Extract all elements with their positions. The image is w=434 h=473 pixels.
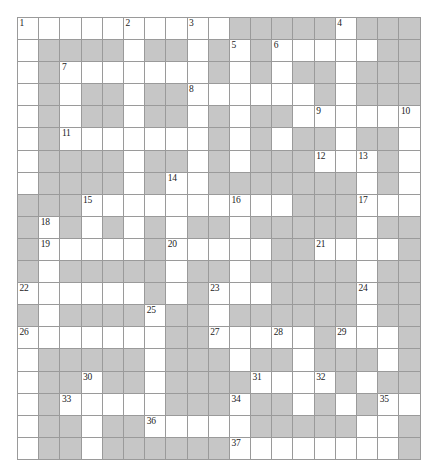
crossword-cell-open[interactable] xyxy=(60,84,81,106)
crossword-cell-open[interactable] xyxy=(335,393,356,415)
crossword-cell-open[interactable] xyxy=(39,305,60,327)
crossword-cell-open[interactable] xyxy=(229,283,250,305)
crossword-cell-open[interactable] xyxy=(272,437,293,459)
crossword-cell-open[interactable] xyxy=(123,216,144,238)
crossword-cell-open[interactable] xyxy=(187,62,208,84)
crossword-cell-open[interactable] xyxy=(399,194,420,216)
crossword-cell-open[interactable] xyxy=(166,62,187,84)
crossword-cell-open[interactable] xyxy=(123,194,144,216)
crossword-cell-open[interactable]: 17 xyxy=(357,194,378,216)
crossword-cell-open[interactable] xyxy=(18,371,39,393)
crossword-cell-open[interactable]: 37 xyxy=(229,437,250,459)
crossword-cell-open[interactable]: 25 xyxy=(145,305,166,327)
crossword-cell-open[interactable] xyxy=(229,62,250,84)
crossword-cell-open[interactable] xyxy=(102,62,123,84)
crossword-cell-open[interactable] xyxy=(39,327,60,349)
crossword-cell-open[interactable]: 4 xyxy=(335,18,356,40)
crossword-cell-open[interactable] xyxy=(208,238,229,260)
crossword-cell-open[interactable] xyxy=(208,84,229,106)
crossword-cell-open[interactable]: 27 xyxy=(208,327,229,349)
crossword-cell-open[interactable] xyxy=(229,349,250,371)
crossword-cell-open[interactable]: 34 xyxy=(229,393,250,415)
crossword-cell-open[interactable] xyxy=(18,172,39,194)
crossword-cell-open[interactable] xyxy=(81,238,102,260)
crossword-cell-open[interactable] xyxy=(229,261,250,283)
crossword-cell-open[interactable] xyxy=(60,283,81,305)
crossword-cell-open[interactable] xyxy=(378,194,399,216)
crossword-cell-open[interactable] xyxy=(335,238,356,260)
crossword-cell-open[interactable] xyxy=(251,437,272,459)
crossword-cell-open[interactable] xyxy=(293,371,314,393)
crossword-cell-open[interactable]: 7 xyxy=(60,62,81,84)
crossword-cell-open[interactable] xyxy=(335,106,356,128)
crossword-cell-open[interactable] xyxy=(102,393,123,415)
crossword-cell-open[interactable] xyxy=(187,150,208,172)
crossword-cell-open[interactable] xyxy=(187,40,208,62)
crossword-cell-open[interactable] xyxy=(293,349,314,371)
crossword-cell-open[interactable] xyxy=(229,150,250,172)
crossword-cell-open[interactable] xyxy=(39,261,60,283)
crossword-cell-open[interactable] xyxy=(208,305,229,327)
crossword-cell-open[interactable] xyxy=(187,106,208,128)
crossword-cell-open[interactable] xyxy=(357,238,378,260)
crossword-cell-open[interactable] xyxy=(81,415,102,437)
crossword-cell-open[interactable] xyxy=(81,327,102,349)
crossword-cell-open[interactable]: 29 xyxy=(335,327,356,349)
crossword-cell-open[interactable]: 20 xyxy=(166,238,187,260)
crossword-cell-open[interactable] xyxy=(272,84,293,106)
crossword-cell-open[interactable] xyxy=(335,84,356,106)
crossword-cell-open[interactable] xyxy=(187,238,208,260)
crossword-cell-open[interactable] xyxy=(145,62,166,84)
crossword-cell-open[interactable] xyxy=(378,437,399,459)
crossword-cell-open[interactable] xyxy=(229,84,250,106)
crossword-cell-open[interactable] xyxy=(208,18,229,40)
crossword-cell-open[interactable] xyxy=(145,194,166,216)
crossword-cell-open[interactable] xyxy=(166,128,187,150)
crossword-cell-open[interactable] xyxy=(123,128,144,150)
crossword-cell-open[interactable] xyxy=(102,128,123,150)
crossword-cell-open[interactable] xyxy=(187,194,208,216)
crossword-cell-open[interactable]: 5 xyxy=(229,40,250,62)
crossword-cell-open[interactable]: 22 xyxy=(18,283,39,305)
crossword-cell-open[interactable] xyxy=(39,283,60,305)
crossword-cell-open[interactable] xyxy=(123,283,144,305)
crossword-cell-open[interactable]: 36 xyxy=(145,415,166,437)
crossword-cell-open[interactable] xyxy=(229,327,250,349)
crossword-cell-open[interactable] xyxy=(145,18,166,40)
crossword-cell-open[interactable]: 24 xyxy=(357,283,378,305)
crossword-cell-open[interactable] xyxy=(357,415,378,437)
crossword-cell-open[interactable] xyxy=(102,194,123,216)
crossword-cell-open[interactable] xyxy=(187,128,208,150)
crossword-cell-open[interactable] xyxy=(18,128,39,150)
crossword-cell-open[interactable]: 30 xyxy=(81,371,102,393)
crossword-cell-open[interactable] xyxy=(81,393,102,415)
crossword-cell-open[interactable] xyxy=(145,393,166,415)
crossword-cell-open[interactable]: 31 xyxy=(251,371,272,393)
crossword-cell-open[interactable] xyxy=(18,437,39,459)
crossword-cell-open[interactable]: 19 xyxy=(39,238,60,260)
crossword-cell-open[interactable] xyxy=(123,40,144,62)
crossword-cell-open[interactable]: 28 xyxy=(272,327,293,349)
crossword-cell-open[interactable] xyxy=(81,216,102,238)
crossword-cell-open[interactable] xyxy=(293,106,314,128)
crossword-cell-open[interactable] xyxy=(378,349,399,371)
crossword-cell-open[interactable] xyxy=(18,106,39,128)
crossword-cell-open[interactable] xyxy=(18,349,39,371)
crossword-cell-open[interactable] xyxy=(357,40,378,62)
crossword-cell-open[interactable] xyxy=(18,62,39,84)
crossword-cell-open[interactable] xyxy=(166,18,187,40)
crossword-cell-open[interactable]: 8 xyxy=(187,84,208,106)
crossword-cell-open[interactable] xyxy=(293,393,314,415)
crossword-cell-open[interactable] xyxy=(145,327,166,349)
crossword-cell-open[interactable]: 10 xyxy=(399,106,420,128)
crossword-cell-open[interactable]: 26 xyxy=(18,327,39,349)
crossword-cell-open[interactable] xyxy=(145,371,166,393)
crossword-cell-open[interactable] xyxy=(335,62,356,84)
crossword-cell-open[interactable] xyxy=(357,327,378,349)
crossword-cell-open[interactable] xyxy=(123,172,144,194)
crossword-cell-open[interactable]: 2 xyxy=(123,18,144,40)
crossword-cell-open[interactable] xyxy=(357,172,378,194)
crossword-cell-open[interactable] xyxy=(357,305,378,327)
crossword-cell-open[interactable] xyxy=(187,415,208,437)
crossword-cell-open[interactable] xyxy=(378,327,399,349)
